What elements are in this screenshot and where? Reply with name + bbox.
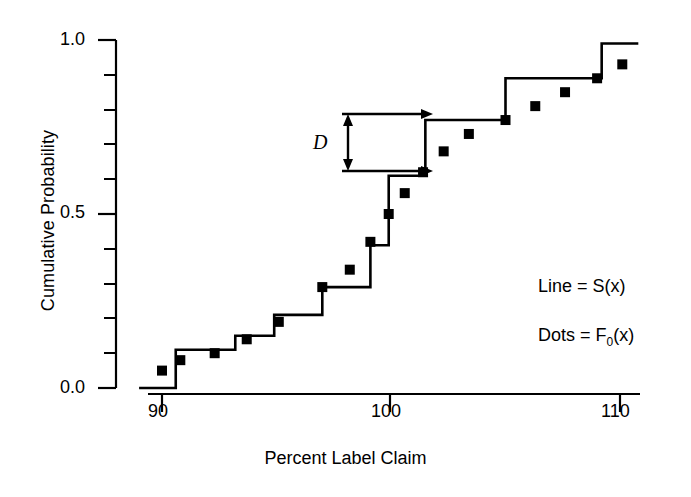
data-point [345,265,355,275]
data-point [274,317,284,327]
data-point [384,209,394,219]
plot-svg [0,0,691,497]
d-vertical-double-arrow [343,114,353,171]
d-upper-arrow [342,109,433,119]
data-point [317,282,327,292]
x-axis-major-ticks [162,394,620,412]
data-point [157,366,167,376]
y-axis-major-ticks [98,40,116,388]
chart-figure: Cumulative Probability Percent Label Cla… [0,0,691,497]
data-point [617,59,627,69]
data-point [501,115,511,125]
data-point [365,237,375,247]
data-point [530,101,540,111]
data-point [560,87,570,97]
data-point [464,129,474,139]
data-point [400,188,410,198]
data-point [242,334,252,344]
data-point [210,348,220,358]
data-point [418,167,428,177]
data-point [175,355,185,365]
data-point [592,73,602,83]
data-point [439,146,449,156]
theoretical-cdf-dots [157,59,627,375]
